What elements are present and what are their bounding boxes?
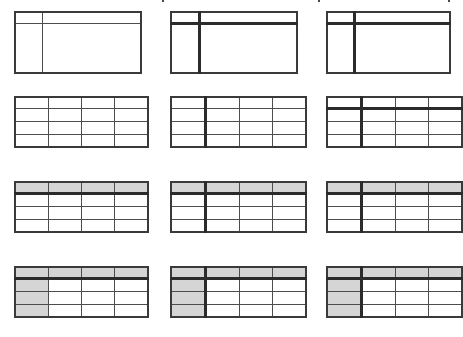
table-preview-body-row: [327, 23, 450, 73]
table-preview-body-cell: [362, 206, 396, 219]
table-preview-body-row: [327, 108, 462, 121]
table-preview-header-cell: [327, 12, 355, 23]
table-preview-body-cell: [15, 304, 49, 317]
table-preview-body-cell: [327, 304, 362, 317]
table-preview-body-cell: [15, 23, 43, 73]
table-preview-body-cell: [115, 121, 149, 134]
table-preview-header-row: [171, 12, 297, 23]
table-style-option[interactable]: [312, 8, 456, 93]
table-style-preview: [170, 266, 307, 318]
table-style-preview: [326, 11, 451, 74]
table-preview-header-cell: [240, 97, 273, 108]
table-preview-body-row: [327, 219, 462, 232]
table-style-preview: [14, 11, 142, 74]
table-preview-body-cell: [115, 291, 149, 304]
table-preview-header-row: [327, 97, 462, 108]
table-style-option[interactable]: [312, 263, 456, 337]
table-style-option[interactable]: [0, 178, 156, 263]
table-preview-header-cell: [273, 97, 307, 108]
table-preview-body-row: [171, 291, 306, 304]
table-preview-body-cell: [362, 121, 396, 134]
table-preview-body-cell: [206, 193, 240, 206]
table-preview-header-cell: [327, 267, 362, 278]
table-style-preview: [170, 181, 307, 233]
table-preview-header-row: [327, 12, 450, 23]
table-preview-body-cell: [171, 121, 206, 134]
table-preview-header-cell: [273, 182, 307, 193]
table-preview-body-cell: [171, 108, 206, 121]
table-preview-header-cell: [82, 182, 115, 193]
table-preview-header-cell: [15, 12, 43, 23]
table-preview-body-cell: [273, 278, 307, 291]
table-preview-body-row: [15, 291, 148, 304]
table-preview-body-row: [327, 291, 462, 304]
clip-tick: [162, 0, 164, 2]
table-preview-body-cell: [15, 193, 49, 206]
table-preview-body-cell: [240, 121, 273, 134]
table-preview-body-cell: [82, 278, 115, 291]
table-style-option[interactable]: [156, 8, 312, 93]
clip-tick: [318, 0, 320, 2]
table-preview-body-cell: [273, 121, 307, 134]
table-preview-body-cell: [171, 134, 206, 147]
gallery-previous-row-clip: [0, 0, 456, 2]
table-style-option[interactable]: [0, 8, 156, 93]
table-style-option[interactable]: [156, 178, 312, 263]
table-preview-body-row: [171, 304, 306, 317]
table-preview-body-cell: [362, 304, 396, 317]
table-style-option[interactable]: [312, 178, 456, 263]
table-preview-body-cell: [15, 278, 49, 291]
table-preview-body-cell: [115, 193, 149, 206]
table-preview-body-cell: [115, 278, 149, 291]
table-preview-body-row: [15, 108, 148, 121]
table-preview-body-cell: [327, 134, 362, 147]
table-preview-body-cell: [199, 23, 297, 73]
table-preview-header-cell: [429, 182, 463, 193]
table-preview-body-row: [327, 193, 462, 206]
table-preview-body-cell: [82, 121, 115, 134]
table-preview-body-row: [15, 206, 148, 219]
table-preview-body-cell: [171, 304, 206, 317]
table-preview-body-cell: [206, 304, 240, 317]
table-preview-body-cell: [327, 121, 362, 134]
table-preview-body-cell: [396, 193, 429, 206]
table-preview-body-cell: [82, 304, 115, 317]
table-preview-body-cell: [429, 278, 463, 291]
table-preview-body-cell: [82, 193, 115, 206]
table-preview-body-cell: [273, 193, 307, 206]
table-preview-body-cell: [362, 193, 396, 206]
table-preview-header-cell: [15, 97, 49, 108]
table-preview-body-cell: [240, 278, 273, 291]
table-style-preview: [326, 266, 463, 318]
table-preview-header-cell: [273, 267, 307, 278]
table-preview-header-row: [171, 182, 306, 193]
table-style-option[interactable]: [156, 93, 312, 178]
table-style-option[interactable]: [156, 263, 312, 337]
table-style-option[interactable]: [0, 93, 156, 178]
table-preview-body-cell: [327, 206, 362, 219]
table-preview-header-row: [327, 267, 462, 278]
table-preview-body-row: [171, 219, 306, 232]
table-preview-body-cell: [49, 291, 82, 304]
table-preview-header-cell: [82, 97, 115, 108]
table-preview-header-cell: [362, 267, 396, 278]
table-preview-body-cell: [429, 134, 463, 147]
table-preview-body-row: [171, 193, 306, 206]
table-style-preview: [170, 11, 298, 74]
table-preview-header-row: [171, 267, 306, 278]
table-preview-header-row: [171, 97, 306, 108]
table-style-preview: [14, 181, 149, 233]
table-preview-body-cell: [396, 206, 429, 219]
table-preview-body-cell: [429, 291, 463, 304]
table-preview-header-cell: [115, 267, 149, 278]
table-preview-body-cell: [273, 134, 307, 147]
table-preview-body-row: [171, 206, 306, 219]
table-preview-body-cell: [49, 219, 82, 232]
table-style-option[interactable]: [312, 93, 456, 178]
table-preview-body-cell: [327, 278, 362, 291]
table-preview-body-cell: [362, 108, 396, 121]
table-preview-body-row: [15, 121, 148, 134]
table-style-option[interactable]: [0, 263, 156, 337]
table-style-preview: [14, 96, 149, 148]
table-preview-body-cell: [15, 219, 49, 232]
